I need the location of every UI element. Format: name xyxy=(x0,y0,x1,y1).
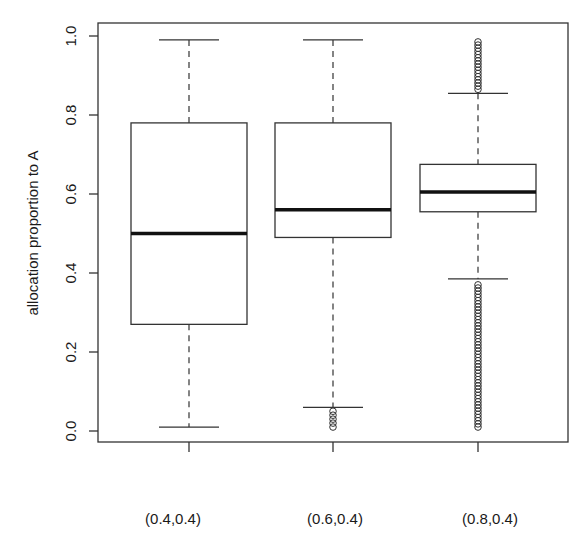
y-tick-label: 0.4 xyxy=(62,263,79,284)
iqr-box xyxy=(131,123,247,324)
x-axis: (0.4,0.4)(0.6,0.4)(0.8,0.4) xyxy=(145,442,518,527)
y-tick-label: 1.0 xyxy=(62,26,79,47)
y-axis-label: allocation proportion to A xyxy=(24,150,41,315)
chart-canvas: 0.00.20.40.60.81.0 (0.4,0.4)(0.6,0.4)(0.… xyxy=(0,0,584,547)
box-1 xyxy=(131,40,247,427)
iqr-box xyxy=(420,164,536,211)
y-tick-label: 0.2 xyxy=(62,342,79,363)
box-2 xyxy=(275,40,391,430)
y-tick-label: 0.6 xyxy=(62,184,79,205)
iqr-box xyxy=(275,123,391,238)
boxplot-chart: 0.00.20.40.60.81.0 (0.4,0.4)(0.6,0.4)(0.… xyxy=(0,0,584,547)
x-tick-label: (0.6,0.4) xyxy=(307,510,363,527)
y-tick-label: 0.8 xyxy=(62,105,79,126)
x-tick-label: (0.4,0.4) xyxy=(145,510,201,527)
x-tick-label: (0.8,0.4) xyxy=(462,510,518,527)
y-axis: 0.00.20.40.60.81.0 xyxy=(62,26,98,442)
box-series xyxy=(131,39,536,431)
y-tick-label: 0.0 xyxy=(62,421,79,442)
outlier-point xyxy=(330,408,337,415)
box-3 xyxy=(420,39,536,431)
